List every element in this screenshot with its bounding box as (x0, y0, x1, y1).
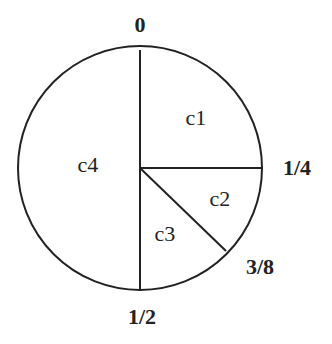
boundary-label-0: 0 (135, 12, 146, 37)
region-label-c3: c3 (155, 221, 176, 246)
region-label-c2: c2 (210, 186, 231, 211)
region-label-c1: c1 (186, 105, 207, 130)
boundary-label-1-4: 1/4 (283, 155, 311, 180)
boundary-label-3-8: 3/8 (246, 254, 274, 279)
region-label-c4: c4 (78, 152, 99, 177)
boundary-label-1-2: 1/2 (128, 304, 156, 329)
circle-partition-diagram: 0 1/4 3/8 1/2 c1 c2 c3 c4 (0, 0, 332, 344)
